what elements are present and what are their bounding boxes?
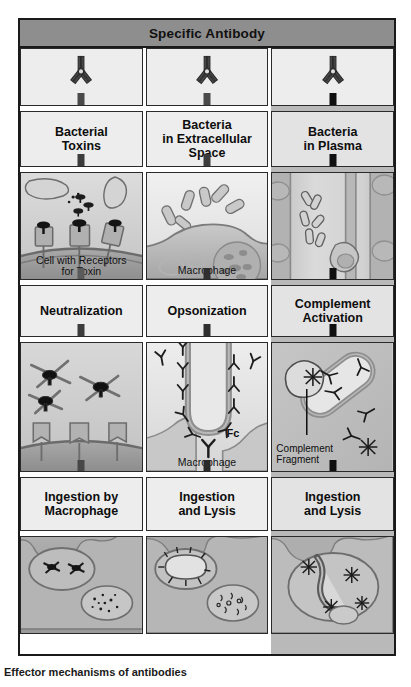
stage-label-text: Ingestionand Lysis	[178, 490, 235, 519]
antibody-icon	[313, 55, 353, 95]
scene-artwork	[147, 173, 268, 279]
stage-label-text: Bacteriain ExtracellularSpace	[162, 118, 252, 161]
scene-artwork	[272, 173, 393, 279]
scene-caption: Cell with Receptorsfor Toxin	[21, 255, 142, 278]
column-opsonization: Bacteriain ExtracellularSpace	[146, 48, 272, 654]
figure-root: Specific Antibody	[0, 0, 411, 687]
antibody-icon	[61, 55, 101, 95]
scene-neutralized-toxins	[20, 342, 143, 472]
scene-caption: Macrophage	[147, 265, 268, 277]
scene-artwork	[21, 537, 142, 633]
stage-label-opsonization: Opsonization	[146, 285, 269, 337]
stage-label-text: ComplementActivation	[295, 297, 371, 326]
complement-fragment-label: ComplementFragment	[276, 443, 333, 465]
stage-label-text: Bacteriain Plasma	[303, 125, 361, 154]
down-arrow-icon	[194, 324, 220, 337]
antibody-icon	[187, 55, 227, 95]
stage-label-text: Ingestionand Lysis	[304, 490, 361, 519]
stage-label-text: Opsonization	[167, 304, 246, 318]
scene-toxins-receptors: Cell with Receptorsfor Toxin	[20, 172, 143, 280]
column-container: BacterialToxins	[20, 48, 394, 654]
header-bar: Specific Antibody	[20, 20, 394, 48]
scene-complement-fragment: ComplementFragment	[271, 342, 394, 472]
stage-label-text: BacterialToxins	[55, 125, 108, 154]
column-neutralization: BacterialToxins	[20, 48, 146, 654]
stage-label-bacteria-extracellular: Bacteriain ExtracellularSpace	[146, 111, 269, 167]
down-arrow-icon	[68, 324, 94, 337]
scene-artwork	[147, 537, 268, 633]
stage-label-ingestion-by-macrophage: Ingestion byMacrophage	[20, 477, 143, 531]
scene-artwork	[21, 343, 142, 471]
antibody-cell-3	[271, 48, 394, 106]
down-arrow-icon	[320, 324, 346, 337]
stage-label-text: Ingestion byMacrophage	[45, 490, 119, 519]
scene-artwork	[147, 343, 268, 471]
antibody-cell-2	[146, 48, 269, 106]
stage-label-ingestion-lysis-2: Ingestionand Lysis	[146, 477, 269, 531]
stage-label-neutralization: Neutralization	[20, 285, 143, 337]
stage-label-bacteria-plasma: Bacteriain Plasma	[271, 111, 394, 167]
stage-label-complement-activation: ComplementActivation	[271, 285, 394, 337]
fc-label: Fc	[227, 427, 240, 439]
scene-ingestion-macrophage	[20, 536, 143, 634]
down-arrow-icon	[320, 154, 346, 167]
stage-label-ingestion-lysis-3: Ingestionand Lysis	[271, 477, 394, 531]
scene-opsonized-bacterium: Fc Macrophage	[146, 342, 269, 472]
down-arrow-icon	[68, 154, 94, 167]
scene-caption: Macrophage	[147, 457, 268, 469]
column-complement-activation: Bacteriain Plasma	[271, 48, 394, 654]
diagram-frame: Specific Antibody	[18, 18, 396, 656]
scene-ingestion-lysis-3	[271, 536, 394, 634]
page-title: Specific Antibody	[149, 26, 265, 41]
scene-bacteria-plasma	[271, 172, 394, 280]
stage-label-bacterial-toxins: BacterialToxins	[20, 111, 143, 167]
scene-artwork	[272, 537, 393, 633]
scene-bacteria-macrophage: Macrophage	[146, 172, 269, 280]
figure-bottom-caption: Effector mechanisms of antibodies	[4, 666, 404, 678]
scene-ingestion-lysis-2	[146, 536, 269, 634]
stage-label-text: Neutralization	[40, 304, 123, 318]
antibody-cell-1	[20, 48, 143, 106]
